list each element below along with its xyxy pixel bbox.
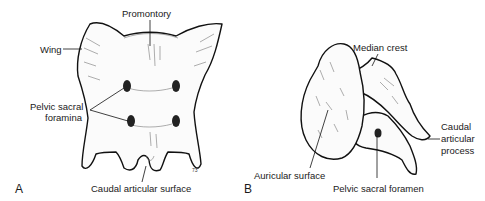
label-pelvic-sacral-foramina-line1: Pelvic sacral <box>30 101 83 112</box>
label-caudal-articular-process-line1: Caudal <box>441 121 471 132</box>
pelvic-sacral-foramen <box>375 129 382 138</box>
sacrum-ventral-view <box>63 20 222 182</box>
label-caudal-articular-surface: Caudal articular surface <box>91 183 191 194</box>
foramen-upper-right <box>172 80 180 92</box>
foramen-lower-right <box>172 115 180 127</box>
label-wing: Wing <box>40 44 62 55</box>
foramen-upper-left <box>123 80 131 92</box>
label-promontory: Promontory <box>122 8 171 19</box>
artist-mark: 73 <box>192 167 198 173</box>
label-caudal-articular-process-line2: articular <box>441 133 475 144</box>
label-caudal-articular-process-line3: process <box>441 145 474 156</box>
sacrum-lateral-view <box>301 44 440 178</box>
label-pelvic-sacral-foramina-line2: foramina <box>45 112 82 123</box>
label-pelvic-sacral-foramen: Pelvic sacral foramen <box>333 183 424 194</box>
foramen-lower-left <box>127 115 135 127</box>
panel-letter-b: B <box>244 182 252 196</box>
leader-caudal-articular-surface <box>142 166 146 182</box>
auricular-wing <box>301 44 364 160</box>
label-median-crest: Median crest <box>353 42 407 53</box>
sacrum-figure: Promontory Wing Pelvic sacral foramina C… <box>0 0 485 201</box>
panel-letter-a: A <box>15 182 23 196</box>
label-auricular-surface: Auricular surface <box>254 170 325 181</box>
